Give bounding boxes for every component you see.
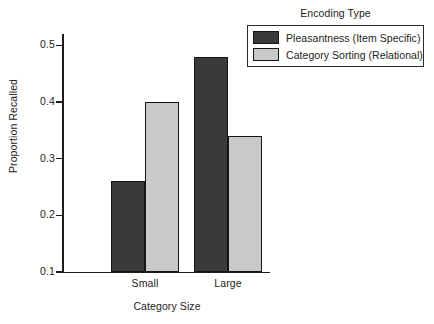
plot-area <box>63 34 271 272</box>
legend-item-pleasantness: Pleasantness (Item Specific) <box>253 30 419 45</box>
y-axis-tick-label: 0.2 <box>33 208 55 220</box>
bar-small-category-sorting <box>145 102 179 272</box>
x-axis-group-label-large: Large <box>188 277 268 289</box>
y-axis-tick-label: 0.3 <box>33 152 55 164</box>
bar-small-pleasantness <box>111 181 145 272</box>
bar-chart: 0.5 0.4 0.3 0.2 0.1 Proportion Recalled … <box>0 0 434 324</box>
y-axis-tick <box>56 271 63 272</box>
legend-item-label: Category Sorting (Relational) <box>286 49 423 61</box>
x-axis-title: Category Size <box>63 300 271 312</box>
legend-swatch-icon-light <box>253 48 279 61</box>
y-axis-tick <box>56 101 63 102</box>
y-axis-tick-label: 0.5 <box>33 38 55 50</box>
y-axis-tick <box>56 158 63 159</box>
bar-large-pleasantness <box>194 57 228 272</box>
y-axis-tick <box>56 215 63 216</box>
legend: Pleasantness (Item Specific) Category So… <box>247 25 424 67</box>
legend-item-category-sorting: Category Sorting (Relational) <box>253 47 419 62</box>
y-axis-tick-label: 0.4 <box>33 95 55 107</box>
legend-swatch-icon-dark <box>253 31 279 44</box>
y-axis-tick <box>56 45 63 46</box>
bar-large-category-sorting <box>228 136 262 272</box>
legend-item-label: Pleasantness (Item Specific) <box>286 32 420 44</box>
y-axis-title: Proportion Recalled <box>7 79 19 173</box>
x-axis-group-label-small: Small <box>105 277 185 289</box>
y-axis-tick-label: 0.1 <box>33 265 55 277</box>
legend-title: Encoding Type <box>247 7 424 19</box>
